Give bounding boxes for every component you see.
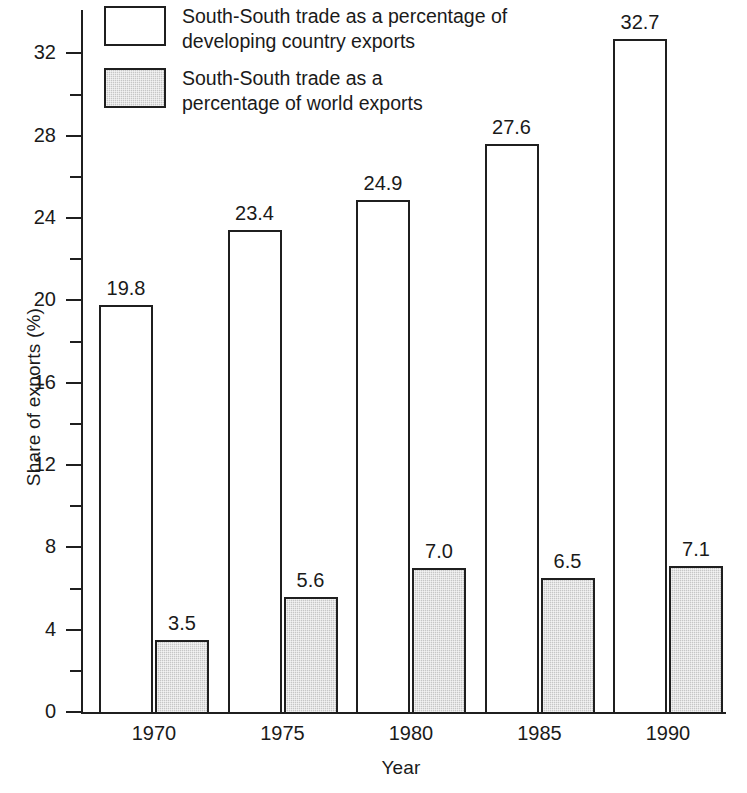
legend-label-line1: South-South trade as a <box>182 66 423 91</box>
legend: South-South trade as a percentage of dev… <box>104 4 624 128</box>
x-tick-label: 1985 <box>485 722 595 745</box>
x-tick-label: 1970 <box>99 722 209 745</box>
y-tick-label: 28 <box>8 125 56 145</box>
bar-value-label: 7.0 <box>384 541 494 561</box>
y-tick-label: 8 <box>8 536 56 556</box>
y-tick-label: 32 <box>8 42 56 62</box>
y-tick-label: 24 <box>8 207 56 227</box>
y-tick-major <box>66 382 82 384</box>
legend-label: South-South trade as a percentage of wor… <box>182 66 423 116</box>
y-tick-major <box>66 711 82 713</box>
bar-world-exports <box>669 566 723 714</box>
y-tick-minor <box>70 94 82 96</box>
bar-world-exports <box>541 578 595 714</box>
y-tick-minor <box>70 505 82 507</box>
x-tick-label: 1980 <box>356 722 466 745</box>
x-axis-label: Year <box>81 757 721 779</box>
bar-value-label: 5.6 <box>256 570 366 590</box>
y-tick-major <box>66 546 82 548</box>
bar-chart: Share of exports (%) 048121620242832 19.… <box>0 0 747 793</box>
legend-swatch-shaded-icon <box>104 68 166 108</box>
y-tick-minor <box>70 588 82 590</box>
bar-world-exports <box>155 640 209 714</box>
bar-world-exports <box>412 568 466 714</box>
y-tick-major <box>66 299 82 301</box>
x-tick-label: 1990 <box>613 722 723 745</box>
bar-developing-country-exports <box>99 305 153 714</box>
y-tick-label: 20 <box>8 289 56 309</box>
bar-value-label: 7.1 <box>641 539 747 559</box>
y-tick-minor <box>70 258 82 260</box>
legend-item-world-exports: South-South trade as a percentage of wor… <box>104 66 624 116</box>
y-tick-minor <box>70 423 82 425</box>
y-tick-major <box>66 464 82 466</box>
y-tick-major <box>66 52 82 54</box>
bar-value-label: 23.4 <box>200 203 310 223</box>
legend-item-developing-country-exports: South-South trade as a percentage of dev… <box>104 4 624 54</box>
y-axis-line <box>81 10 83 714</box>
legend-label-line2: developing country exports <box>182 29 507 54</box>
y-tick-major <box>66 135 82 137</box>
legend-label-line2: percentage of world exports <box>182 91 423 116</box>
bar-developing-country-exports <box>356 200 410 714</box>
bar-value-label: 3.5 <box>127 613 237 633</box>
bar-value-label: 24.9 <box>328 173 438 193</box>
x-tick-label: 1975 <box>228 722 338 745</box>
bar-developing-country-exports <box>228 230 282 714</box>
y-tick-minor <box>70 176 82 178</box>
y-tick-major <box>66 629 82 631</box>
bar-developing-country-exports <box>485 144 539 714</box>
legend-swatch-open-icon <box>104 6 166 46</box>
y-tick-major <box>66 217 82 219</box>
bar-world-exports <box>284 597 338 714</box>
y-tick-label: 4 <box>8 619 56 639</box>
y-tick-minor <box>70 341 82 343</box>
bar-developing-country-exports <box>613 39 667 714</box>
bar-value-label: 6.5 <box>513 551 623 571</box>
y-tick-label: 12 <box>8 454 56 474</box>
bar-value-label: 19.8 <box>71 278 181 298</box>
y-tick-label: 16 <box>8 372 56 392</box>
y-tick-label: 0 <box>8 701 56 721</box>
y-axis-label: Share of exports (%) <box>23 277 45 517</box>
legend-label: South-South trade as a percentage of dev… <box>182 4 507 54</box>
y-tick-minor <box>70 670 82 672</box>
legend-label-line1: South-South trade as a percentage of <box>182 4 507 29</box>
